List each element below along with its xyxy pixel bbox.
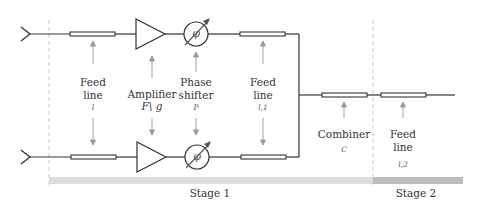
feed-line-stage2 <box>381 93 426 97</box>
feed-line-3-symbol: l,2 <box>391 160 415 169</box>
antenna-icon <box>21 27 30 41</box>
amplifier-symbol: F\ g <box>132 100 172 113</box>
antenna-icon <box>21 150 30 164</box>
diagram-canvas <box>0 0 483 212</box>
stage2-bar <box>373 177 463 184</box>
stage-1-label: Stage 1 <box>180 187 240 199</box>
feed-line-3-title: Feed line <box>383 128 423 154</box>
phase-shifter-title: Phase shifter <box>171 76 221 102</box>
feed-line-top-2 <box>240 32 285 36</box>
feed-line-top-1 <box>70 32 115 36</box>
stage1-bar <box>49 177 373 184</box>
feed-line-1-symbol: l <box>83 103 103 112</box>
amplifier-top <box>136 19 165 49</box>
beamforming-diagram: φ φ Feed line l Amplifier F\ g Phase shi… <box>0 0 483 212</box>
combiner-line <box>322 93 367 97</box>
feed-line-2-symbol: l,1 <box>251 103 275 112</box>
feed-line-1-title: Feed line <box>73 76 113 102</box>
feed-line-bottom-1 <box>71 155 116 159</box>
amplifier-bottom <box>137 142 166 172</box>
feed-line-2-title: Feed line <box>243 76 283 102</box>
phase-glyph-top: φ <box>188 27 204 40</box>
stage-2-label: Stage 2 <box>386 187 446 199</box>
phase-shifter-symbol: P <box>186 103 206 112</box>
combiner-symbol: C <box>334 145 354 154</box>
combiner-title: Combiner <box>314 128 374 141</box>
feed-line-bottom-2 <box>241 155 286 159</box>
phase-glyph-bottom: φ <box>189 150 205 163</box>
